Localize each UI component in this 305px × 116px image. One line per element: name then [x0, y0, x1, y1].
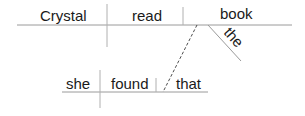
- modifier-word-the: the: [221, 24, 248, 51]
- main-object-word: book: [220, 5, 253, 22]
- relative-object-word: that: [176, 75, 202, 92]
- relative-verb-word: found: [111, 75, 149, 92]
- main-verb-word: read: [132, 7, 162, 24]
- sentence-diagram: Crystal read book the she found that: [0, 0, 305, 116]
- main-subject-word: Crystal: [40, 7, 87, 24]
- relative-subject-word: she: [66, 75, 90, 92]
